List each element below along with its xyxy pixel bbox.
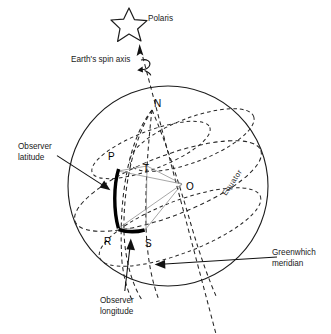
point-label-p: P <box>108 151 115 162</box>
meridian-right <box>152 110 216 296</box>
point-label-north-pole: N <box>154 98 161 109</box>
observer-latitude-label-line1: Observer <box>18 142 52 151</box>
greenwich-meridian-label-line2: meridian <box>272 259 304 268</box>
spin-axis-label: Earth's spin axis <box>71 55 130 64</box>
polaris-label: Polaris <box>148 14 173 23</box>
construction-lines <box>118 166 182 230</box>
greenwich-meridian-label-line1: Greenwhich <box>272 248 316 257</box>
point-label-s: S <box>145 238 152 249</box>
polaris-star-icon <box>111 8 147 41</box>
observer-latitude-label-line2: latitude <box>18 153 45 162</box>
diagram-canvas: Polaris Earth's spin axis Observer latit… <box>0 0 331 334</box>
observer-latitude-arc-highlight <box>115 169 119 228</box>
earth-coordinate-diagram: Polaris Earth's spin axis Observer latit… <box>0 0 331 334</box>
axis-arrow-icon <box>137 44 144 56</box>
equator-label: Equator <box>220 168 244 197</box>
observer-latitude-circle <box>85 110 216 191</box>
observer-latitude-leader <box>57 156 110 191</box>
point-label-o: O <box>186 181 194 192</box>
observer-longitude-arc-highlight <box>119 230 145 232</box>
point-label-r: R <box>104 236 111 247</box>
greenwich-meridian-leader <box>155 257 277 269</box>
equator-line <box>64 122 271 249</box>
point-label-t: T <box>143 163 149 174</box>
rotation-curved-arrow-icon <box>137 60 151 76</box>
earth-sphere-outline <box>68 86 268 286</box>
observer-longitude-label-line2: longitude <box>100 307 134 316</box>
observer-longitude-label-line1: Observer <box>100 296 134 305</box>
